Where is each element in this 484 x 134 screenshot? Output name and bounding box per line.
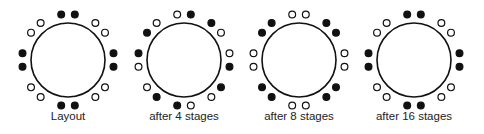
panel-after-4-stages bbox=[135, 11, 233, 109]
filled-dot-icon bbox=[333, 29, 340, 36]
panel-layout bbox=[19, 11, 117, 109]
filled-dot-icon bbox=[268, 20, 275, 27]
filled-dot-icon bbox=[71, 102, 78, 109]
panel-label-after-8-stages: after 8 stages bbox=[239, 110, 359, 122]
filled-dot-icon bbox=[19, 50, 26, 57]
filled-dot-icon bbox=[417, 102, 424, 109]
open-dot-icon bbox=[383, 20, 390, 27]
open-dot-icon bbox=[153, 20, 160, 27]
panel-label-after-4-stages: after 4 stages bbox=[124, 110, 244, 122]
filled-dot-icon bbox=[259, 84, 266, 91]
ring-circle bbox=[31, 23, 105, 97]
open-dot-icon bbox=[28, 29, 35, 36]
open-dot-icon bbox=[383, 94, 390, 101]
filled-dot-icon bbox=[71, 11, 78, 18]
open-dot-icon bbox=[374, 84, 381, 91]
open-dot-icon bbox=[28, 84, 35, 91]
filled-dot-icon bbox=[259, 29, 266, 36]
open-dot-icon bbox=[448, 29, 455, 36]
open-dot-icon bbox=[341, 63, 348, 70]
filled-dot-icon bbox=[144, 29, 151, 36]
open-dot-icon bbox=[302, 102, 309, 109]
panel-label-layout: Layout bbox=[8, 110, 128, 122]
filled-dot-icon bbox=[135, 50, 142, 57]
filled-dot-icon bbox=[218, 84, 225, 91]
filled-dot-icon bbox=[58, 11, 65, 18]
open-dot-icon bbox=[289, 102, 296, 109]
open-dot-icon bbox=[37, 20, 44, 27]
filled-dot-icon bbox=[404, 102, 411, 109]
filled-dot-icon bbox=[456, 63, 463, 70]
open-dot-icon bbox=[438, 94, 445, 101]
ring-circle bbox=[262, 23, 336, 97]
open-dot-icon bbox=[289, 11, 296, 18]
open-dot-icon bbox=[226, 50, 233, 57]
filled-dot-icon bbox=[323, 94, 330, 101]
open-dot-icon bbox=[92, 20, 99, 27]
filled-dot-icon bbox=[365, 63, 372, 70]
open-dot-icon bbox=[208, 94, 215, 101]
filled-dot-icon bbox=[456, 50, 463, 57]
filled-dot-icon bbox=[187, 11, 194, 18]
open-dot-icon bbox=[174, 11, 181, 18]
open-dot-icon bbox=[144, 84, 151, 91]
panel-after-16-stages bbox=[365, 11, 463, 109]
open-dot-icon bbox=[102, 29, 109, 36]
filled-dot-icon bbox=[110, 50, 117, 57]
ring-circle bbox=[147, 23, 221, 97]
open-dot-icon bbox=[37, 94, 44, 101]
filled-dot-icon bbox=[19, 63, 26, 70]
filled-dot-icon bbox=[365, 50, 372, 57]
ring-circle bbox=[377, 23, 451, 97]
open-dot-icon bbox=[302, 11, 309, 18]
open-dot-icon bbox=[374, 29, 381, 36]
open-dot-icon bbox=[341, 50, 348, 57]
filled-dot-icon bbox=[58, 102, 65, 109]
filled-dot-icon bbox=[110, 63, 117, 70]
filled-dot-icon bbox=[323, 20, 330, 27]
filled-dot-icon bbox=[268, 94, 275, 101]
filled-dot-icon bbox=[417, 11, 424, 18]
filled-dot-icon bbox=[226, 63, 233, 70]
open-dot-icon bbox=[92, 94, 99, 101]
filled-dot-icon bbox=[153, 94, 160, 101]
filled-dot-icon bbox=[208, 20, 215, 27]
filled-dot-icon bbox=[174, 102, 181, 109]
open-dot-icon bbox=[438, 20, 445, 27]
open-dot-icon bbox=[250, 63, 257, 70]
open-dot-icon bbox=[135, 63, 142, 70]
open-dot-icon bbox=[187, 102, 194, 109]
open-dot-icon bbox=[250, 50, 257, 57]
filled-dot-icon bbox=[404, 11, 411, 18]
filled-dot-icon bbox=[333, 84, 340, 91]
panel-after-8-stages bbox=[250, 11, 348, 109]
open-dot-icon bbox=[218, 29, 225, 36]
open-dot-icon bbox=[102, 84, 109, 91]
open-dot-icon bbox=[448, 84, 455, 91]
panel-label-after-16-stages: after 16 stages bbox=[354, 110, 474, 122]
